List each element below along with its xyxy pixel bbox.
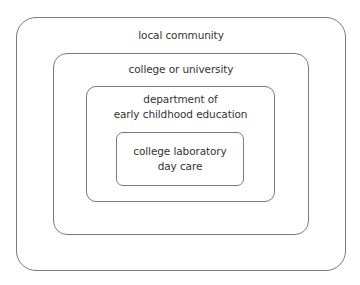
label-department-ece: department of early childhood education bbox=[87, 92, 274, 122]
label-line: day care bbox=[117, 159, 243, 174]
label-line: early childhood education bbox=[87, 107, 274, 122]
label-line: college laboratory bbox=[117, 144, 243, 159]
label-line: department of bbox=[87, 92, 274, 107]
label-line: local community bbox=[17, 28, 345, 43]
label-line: college or university bbox=[54, 62, 308, 77]
label-lab-day-care: college laboratory day care bbox=[117, 144, 243, 174]
label-local-community: local community bbox=[17, 28, 345, 43]
box-lab-day-care: college laboratory day care bbox=[116, 132, 244, 186]
label-college-or-university: college or university bbox=[54, 62, 308, 77]
